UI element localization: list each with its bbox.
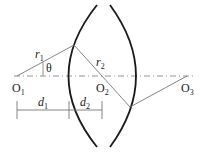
label-r2: r2 bbox=[96, 56, 105, 71]
label-theta: θ bbox=[46, 62, 52, 74]
label-o1: O1 bbox=[12, 82, 25, 97]
label-o2: O2 bbox=[96, 82, 109, 97]
lens-diagram: O1 O2 O3 r1 r2 θ d1 d2 bbox=[0, 0, 201, 154]
ray-to-o3 bbox=[130, 76, 187, 107]
label-d2: d2 bbox=[80, 96, 90, 111]
label-o3: O3 bbox=[181, 82, 194, 97]
diagram-graphics bbox=[0, 0, 201, 154]
label-d1: d1 bbox=[38, 96, 48, 111]
label-r1: r1 bbox=[35, 48, 44, 63]
